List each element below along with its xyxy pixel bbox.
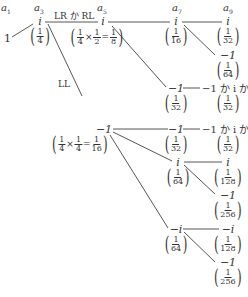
prob-a9-minus1: (164) bbox=[215, 60, 241, 80]
node-a5-i: i bbox=[101, 16, 105, 27]
edge-a5m1-a7mi bbox=[110, 135, 168, 228]
calc-a5-minus1: (14×14=116) bbox=[50, 134, 109, 154]
prob-a7-minus1-b: (132) bbox=[163, 134, 189, 154]
calc-a5-i: (14×12=18) bbox=[69, 27, 125, 47]
prob-a9-minus1-b: (1256) bbox=[213, 200, 244, 220]
prob-a7-minus1-a: (132) bbox=[163, 93, 189, 113]
prob-a7-minus-i: (164) bbox=[163, 234, 189, 254]
prob-a9-or-b: (132) bbox=[215, 134, 241, 154]
prob-a9-minus1-c: (1256) bbox=[213, 267, 244, 287]
prob-a9-minus-i: (1128) bbox=[213, 234, 244, 254]
prob-a9-i-b: (1128) bbox=[213, 167, 244, 187]
prob-a9-i: (132) bbox=[215, 26, 241, 46]
edge-label-ll: LL bbox=[58, 79, 70, 90]
prob-a3: (14) bbox=[29, 26, 52, 46]
prob-a9-or-a: (132) bbox=[215, 93, 241, 113]
root-node: 1 bbox=[4, 33, 11, 44]
header-a1: a1 bbox=[1, 2, 11, 17]
edge-label-lr-rl: LR か RL bbox=[54, 11, 94, 22]
prob-a7-i: (116) bbox=[163, 26, 189, 46]
prob-a7-i-b: (164) bbox=[165, 167, 191, 187]
